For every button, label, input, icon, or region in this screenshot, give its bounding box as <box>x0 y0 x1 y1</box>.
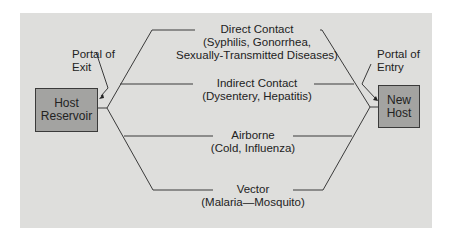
route-examples: (Syphilis, Gonorrhea, <box>157 36 357 49</box>
new-host-node: New Host <box>378 85 420 128</box>
new-host-label-1: New <box>387 94 411 107</box>
host-reservoir-node: Host Reservoir <box>35 88 98 132</box>
portal-of-exit-label: Portal of Exit <box>72 48 115 74</box>
route-examples: (Dysentery, Hepatitis) <box>157 90 357 103</box>
route-title: Airborne <box>153 129 353 142</box>
portal-entry-line2: Entry <box>377 61 420 74</box>
route-title: Direct Contact <box>157 23 357 36</box>
route-examples-2: Sexually-Transmitted Diseases) <box>157 49 357 62</box>
route-title: Indirect Contact <box>157 77 357 90</box>
portal-entry-line1: Portal of <box>377 48 420 61</box>
route-examples: (Malaria—Mosquito) <box>153 196 353 209</box>
portal-exit-line1: Portal of <box>72 48 115 61</box>
route-direct-contact: Direct Contact (Syphilis, Gonorrhea, Sex… <box>157 23 357 62</box>
new-host-label-2: Host <box>387 107 412 120</box>
portal-exit-line2: Exit <box>72 61 115 74</box>
host-reservoir-label-2: Reservoir <box>41 110 92 123</box>
route-examples: (Cold, Influenza) <box>153 142 353 155</box>
route-indirect-contact: Indirect Contact (Dysentery, Hepatitis) <box>157 77 357 103</box>
portal-of-entry-label: Portal of Entry <box>377 48 420 74</box>
route-title: Vector <box>153 183 353 196</box>
route-airborne: Airborne (Cold, Influenza) <box>153 129 353 155</box>
route-vector: Vector (Malaria—Mosquito) <box>153 183 353 209</box>
